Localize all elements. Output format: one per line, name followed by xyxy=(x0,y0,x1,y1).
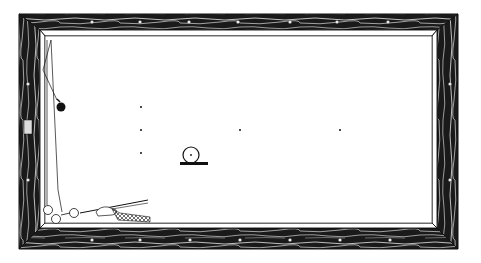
left-cushion xyxy=(40,30,45,228)
rail-marking xyxy=(24,120,32,134)
right-rail xyxy=(437,14,458,249)
bottom-cushion xyxy=(40,223,437,228)
diamond-icon xyxy=(138,238,141,241)
diamond-icon xyxy=(188,238,191,241)
diamond-icon xyxy=(187,20,190,23)
diamond-icon xyxy=(138,20,141,23)
cue-ball xyxy=(70,209,79,218)
diamond-icon xyxy=(26,82,29,85)
diamond-icon xyxy=(338,238,341,241)
spot-icon xyxy=(239,129,241,131)
diamond-icon xyxy=(335,20,338,23)
diamond-icon xyxy=(238,238,241,241)
diamond-icon xyxy=(236,20,239,23)
diamond-icon xyxy=(90,238,93,241)
diamond-icon xyxy=(386,20,389,23)
diamond-icon xyxy=(90,20,93,23)
diamond-icon xyxy=(288,238,291,241)
table-bed xyxy=(45,36,432,223)
spot-icon xyxy=(140,129,142,131)
top-cushion xyxy=(40,30,437,36)
diamond-icon xyxy=(388,238,391,241)
spot-icon xyxy=(140,106,142,108)
right-cushion xyxy=(432,30,437,228)
diamond-icon xyxy=(448,82,451,85)
black-object-ball xyxy=(57,103,66,112)
spot-icon xyxy=(339,129,341,131)
spot-icon xyxy=(140,152,142,154)
diamond-icon xyxy=(288,20,291,23)
diamond-icon xyxy=(26,178,29,181)
billiards-diagram: billiards-table-shot-diagram xyxy=(0,0,481,263)
table-illustration xyxy=(0,0,481,263)
bottom-rail xyxy=(19,228,458,249)
diamond-icon xyxy=(448,178,451,181)
